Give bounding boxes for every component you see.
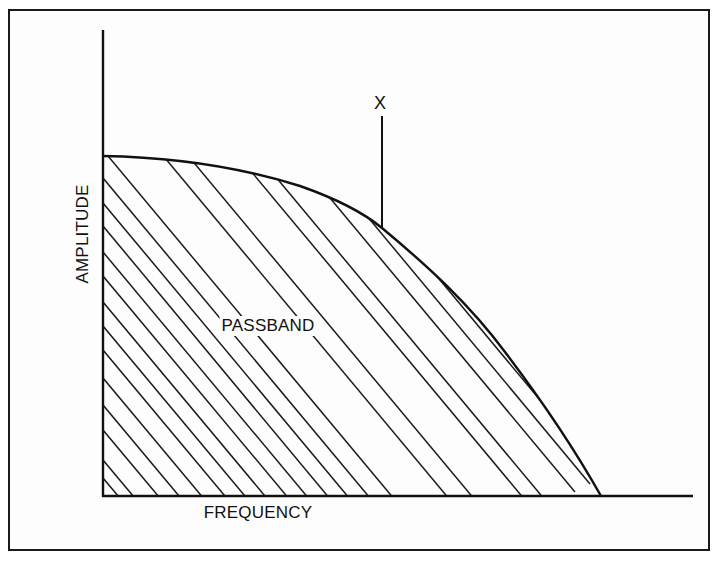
- y-axis-label: AMPLITUDE: [73, 184, 93, 283]
- x-axis-label: FREQUENCY: [204, 503, 313, 523]
- frequency-response-plot: [0, 0, 717, 564]
- response-curve: [103, 156, 601, 496]
- x-marker-label: X: [374, 93, 386, 114]
- passband-hatching: [103, 140, 630, 552]
- passband-label: PASSBAND: [220, 316, 317, 336]
